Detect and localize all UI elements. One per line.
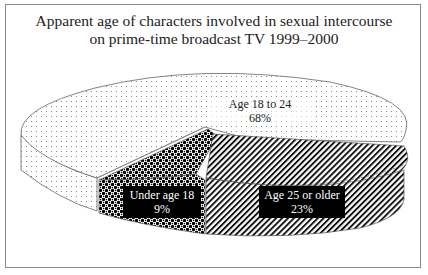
- label-age-18-24: Age 18 to 24 68%: [208, 97, 312, 125]
- label-age-25-plus: Age 25 or older 23%: [259, 186, 345, 218]
- pie-chart: [0, 0, 428, 275]
- label-under-18-name: Under age 18: [126, 188, 198, 202]
- label-under-18-value: 9%: [126, 202, 198, 216]
- label-age-25-plus-name: Age 25 or older: [262, 188, 342, 202]
- label-age-18-24-value: 68%: [208, 111, 312, 125]
- label-age-25-plus-value: 23%: [262, 202, 342, 216]
- slice-age-25-plus: [206, 134, 408, 236]
- label-under-18: Under age 18 9%: [123, 186, 201, 218]
- label-age-18-24-name: Age 18 to 24: [208, 97, 312, 111]
